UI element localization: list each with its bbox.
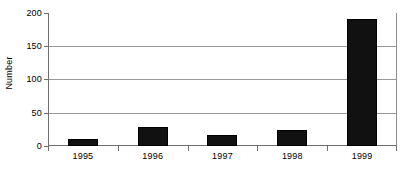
x-label-1997: 1997: [188, 151, 258, 161]
x-label-1999: 1999: [327, 151, 397, 161]
bar-1995: [68, 139, 98, 146]
x-label-1998: 1998: [257, 151, 327, 161]
bar-1997: [207, 135, 237, 146]
x-axis-labels: 1995 1996 1997 1998 1999: [48, 151, 397, 161]
y-axis-title-text: Number: [4, 56, 14, 89]
bar-1996: [138, 127, 168, 146]
x-label-1995: 1995: [48, 151, 118, 161]
bar-chart: Number 200 150 100 50 0: [0, 0, 410, 175]
y-tick-label-150: 150: [8, 41, 42, 51]
bar-cell-1995: [48, 13, 118, 146]
bar-cell-1998: [257, 13, 327, 146]
y-tick-label-200: 200: [8, 8, 42, 18]
x-label-1996: 1996: [118, 151, 188, 161]
bar-cell-1996: [118, 13, 188, 146]
bar-series: [48, 13, 397, 146]
bar-cell-1997: [188, 13, 258, 146]
bar-1999: [347, 19, 377, 146]
y-tick-label-0: 0: [8, 141, 42, 151]
y-tick-label-100: 100: [8, 74, 42, 84]
y-tick-label-50: 50: [8, 108, 42, 118]
bar-cell-1999: [327, 13, 397, 146]
bar-1998: [277, 130, 307, 146]
y-axis-title: Number: [2, 0, 16, 146]
